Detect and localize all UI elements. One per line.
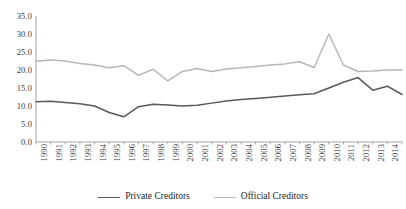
x-axis-labels: 1990199119921993199419951996199719981999… xyxy=(36,144,402,184)
x-axis-tick-label: 1998 xyxy=(157,144,166,161)
legend-swatch-private-creditors xyxy=(98,197,120,198)
x-axis-tick-label: 1990 xyxy=(40,144,49,161)
x-axis-tick-label: 1994 xyxy=(99,144,108,161)
series-lines xyxy=(36,34,402,117)
x-axis-tick-label: 2006 xyxy=(274,144,283,161)
y-axis-tick-label: 25.0 xyxy=(0,48,32,57)
legend-swatch-official-creditors xyxy=(214,197,236,198)
x-axis-tick-label: 1995 xyxy=(113,144,122,161)
x-axis-tick-label: 2014 xyxy=(391,144,400,161)
x-axis-tick-label: 2009 xyxy=(318,144,327,161)
x-axis-tick-label: 2003 xyxy=(230,144,239,161)
y-axis-tick-label: 20.0 xyxy=(0,66,32,75)
chart-legend: Private Creditors Official Creditors xyxy=(0,188,406,206)
y-axis-tick-label: 10.0 xyxy=(0,102,32,111)
x-axis-tick-label: 2005 xyxy=(260,144,269,161)
x-axis-tick-label: 2008 xyxy=(304,144,313,161)
x-axis-tick-label: 1996 xyxy=(128,144,137,161)
x-axis-tick-label: 2001 xyxy=(201,144,210,161)
x-axis-tick-label: 2012 xyxy=(362,144,371,161)
x-axis-tick-label: 2011 xyxy=(347,144,356,161)
y-axis-labels: 0.05.010.015.020.025.030.035.0 xyxy=(0,0,32,160)
x-axis-tick-label: 1992 xyxy=(69,144,78,161)
y-axis-tick-label: 15.0 xyxy=(0,84,32,93)
x-axis-tick-label: 2013 xyxy=(377,144,386,161)
x-axis-tick-label: 2000 xyxy=(186,144,195,161)
line-chart: 0.05.010.015.020.025.030.035.0 199019911… xyxy=(0,0,406,209)
legend-label-private-creditors: Private Creditors xyxy=(125,192,190,202)
x-axis-tick-label: 2002 xyxy=(216,144,225,161)
y-axis-tick-label: 30.0 xyxy=(0,30,32,39)
axis-lines xyxy=(36,16,402,142)
x-axis-tick-label: 2004 xyxy=(245,144,254,161)
y-axis-tick-label: 5.0 xyxy=(0,120,32,129)
x-axis-tick-label: 1999 xyxy=(172,144,181,161)
y-axis-tick-label: 35.0 xyxy=(0,12,32,21)
legend-label-official-creditors: Official Creditors xyxy=(241,192,308,202)
legend-item-official-creditors: Official Creditors xyxy=(214,192,308,202)
legend-item-private-creditors: Private Creditors xyxy=(98,192,190,202)
series-line-official-creditors xyxy=(36,34,402,81)
series-line-private-creditors xyxy=(36,78,402,117)
x-axis-tick-label: 2007 xyxy=(289,144,298,161)
x-axis-tick-label: 1997 xyxy=(142,144,151,161)
x-axis-tick-label: 1993 xyxy=(84,144,93,161)
y-axis-tick-label: 0.0 xyxy=(0,138,32,147)
x-axis-tick-label: 2010 xyxy=(333,144,342,161)
x-axis-tick-label: 1991 xyxy=(55,144,64,161)
